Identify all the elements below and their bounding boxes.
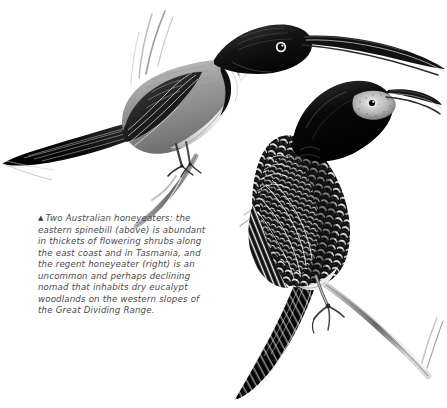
regent-body (248, 135, 350, 290)
regent-eye-ring (367, 98, 376, 107)
up-triangle-figure-marker: ▲ (38, 214, 43, 222)
bird-illustrations (0, 0, 447, 408)
regent-leg-foot (313, 276, 345, 333)
spinebill-head (214, 25, 312, 74)
spinebill-legs-feet (168, 142, 201, 177)
figure-caption-text: Two Australian honeyeaters: the eastern … (38, 213, 205, 315)
spinebill-body (122, 60, 240, 154)
figure-caption: ▲Two Australian honeyeaters: the eastern… (38, 213, 210, 317)
spinebill-wing (123, 72, 202, 146)
regent-perch-branch (300, 268, 428, 376)
illustration-plate: ▲Two Australian honeyeaters: the eastern… (0, 0, 447, 408)
regent-eye (369, 100, 375, 106)
spinebill-eye (278, 44, 285, 51)
spinebill-eye-ring (276, 42, 286, 52)
regent-bill (386, 89, 442, 114)
spinebill-bill (302, 36, 445, 75)
spinebill-tail (2, 124, 130, 180)
regent-tail (234, 266, 317, 400)
eastern-spinebill-illustration (2, 25, 445, 226)
background-grass-strokes-right (229, 70, 443, 368)
regent-facial-skin-patch (352, 91, 395, 120)
background-grass-strokes (131, 11, 173, 84)
spinebill-throat (216, 60, 240, 116)
regent-head (292, 81, 396, 162)
regent-honeyeater-illustration (234, 81, 442, 400)
